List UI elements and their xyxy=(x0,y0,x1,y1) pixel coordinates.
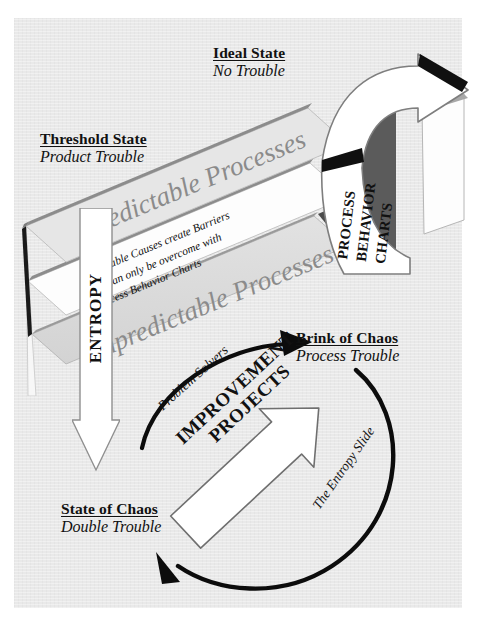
entropy-arrow-label-wrap: ENTROPY xyxy=(72,208,120,428)
state-heading-ideal: Ideal State xyxy=(213,45,285,62)
state-heading-chaos: State of Chaos xyxy=(61,501,161,518)
state-subtitle-ideal: No Trouble xyxy=(213,62,285,79)
state-heading-threshold: Threshold State xyxy=(40,131,147,148)
state-label-ideal: Ideal State No Trouble xyxy=(213,45,285,79)
state-subtitle-chaos: Double Trouble xyxy=(61,518,161,535)
state-label-threshold: Threshold State Product Trouble xyxy=(40,131,147,165)
state-subtitle-threshold: Product Trouble xyxy=(40,148,147,165)
state-heading-brink: Brink of Chaos xyxy=(296,330,399,347)
state-label-chaos: State of Chaos Double Trouble xyxy=(61,501,161,535)
state-subtitle-brink: Process Trouble xyxy=(296,347,399,364)
process-behavior-charts-label-wrap: PROCESS BEHAVIOR CHARTS xyxy=(301,105,438,269)
diagram-canvas: Predictable Processes Assignable Causes … xyxy=(0,0,477,627)
state-label-brink: Brink of Chaos Process Trouble xyxy=(296,330,399,364)
entropy-arrow-label: ENTROPY xyxy=(86,273,106,363)
